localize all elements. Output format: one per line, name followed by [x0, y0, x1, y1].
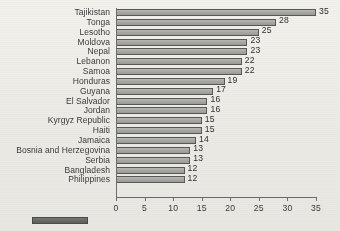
- bar: [116, 137, 196, 144]
- bar-value-label: 25: [262, 25, 272, 36]
- bar-row: 15: [116, 116, 316, 126]
- bar-row: 12: [116, 175, 316, 185]
- x-tick: [145, 197, 146, 201]
- bar: [116, 68, 242, 75]
- bar: [116, 117, 202, 124]
- category-label: Philippines: [0, 175, 113, 185]
- x-tick: [202, 197, 203, 201]
- bar-row: 23: [116, 38, 316, 48]
- x-tick-label: 5: [142, 203, 147, 213]
- bar-row: 13: [116, 146, 316, 156]
- bar-chart: TajikistanTongaLesothoMoldovaNepalLebano…: [0, 0, 340, 231]
- x-tick-label: 25: [254, 203, 264, 213]
- plot-area: 352825232322221917161615151413131212: [116, 8, 316, 197]
- bar: [116, 167, 185, 174]
- x-tick-label: 20: [225, 203, 235, 213]
- bar: [116, 29, 259, 36]
- category-axis-labels: TajikistanTongaLesothoMoldovaNepalLebano…: [0, 8, 113, 197]
- bar: [116, 39, 247, 46]
- x-tick: [230, 197, 231, 201]
- bar-value-label: 22: [245, 65, 255, 76]
- bar: [116, 147, 190, 154]
- bar-value-label: 19: [228, 75, 238, 86]
- bar: [116, 107, 207, 114]
- x-tick: [116, 197, 117, 201]
- bar: [116, 157, 190, 164]
- bar-row: 28: [116, 18, 316, 28]
- bar: [116, 98, 207, 105]
- bar-value-label: 35: [319, 6, 329, 17]
- bar-rows: 352825232322221917161615151413131212: [116, 8, 316, 197]
- y-axis-line: [116, 8, 117, 198]
- bar: [116, 48, 247, 55]
- bar: [116, 19, 276, 26]
- bar: [116, 127, 202, 134]
- x-tick-label: 30: [282, 203, 292, 213]
- x-tick: [287, 197, 288, 201]
- x-tick-label: 10: [168, 203, 178, 213]
- x-tick: [316, 197, 317, 201]
- bar-row: 22: [116, 67, 316, 77]
- bar-row: 22: [116, 57, 316, 67]
- bar-row: 15: [116, 126, 316, 136]
- bar-value-label: 12: [188, 173, 198, 184]
- bar-row: 16: [116, 106, 316, 116]
- x-tick-label: 35: [311, 203, 321, 213]
- bar-row: 13: [116, 156, 316, 166]
- bar-value-label: 28: [279, 15, 289, 26]
- bar-row: 23: [116, 47, 316, 57]
- x-tick: [259, 197, 260, 201]
- legend-swatch: [32, 217, 88, 224]
- x-tick: [173, 197, 174, 201]
- bar-row: 12: [116, 166, 316, 176]
- bar: [116, 176, 185, 183]
- bar-row: 14: [116, 136, 316, 146]
- bar-row: 25: [116, 28, 316, 38]
- bar: [116, 78, 225, 85]
- bar: [116, 88, 213, 95]
- x-tick-label: 15: [197, 203, 207, 213]
- bar: [116, 58, 242, 65]
- x-tick-label: 0: [114, 203, 119, 213]
